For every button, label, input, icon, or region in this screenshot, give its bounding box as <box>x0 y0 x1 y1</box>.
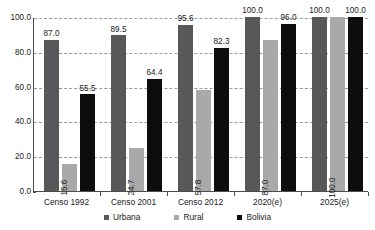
bar-value-urbana-2020e: 100.0 <box>242 7 263 16</box>
bars: 100.0 87.0 96.0 <box>242 18 302 191</box>
bars: 87.0 15.6 55.5 <box>41 18 101 191</box>
legend-label-urbana: Urbana <box>113 212 140 222</box>
bar-value-rural-censo-1992: 15.6 <box>61 180 70 196</box>
bar-bolivia-censo-1992[interactable]: 55.5 <box>80 94 95 191</box>
y-tick-mark-0 <box>33 192 36 193</box>
bars: 100.0 100.0 100.0 <box>309 18 369 191</box>
bar-rural-2025e[interactable]: 100.0 <box>330 17 345 191</box>
x-axis-label-censo-2012: Censo 2012 <box>167 197 234 207</box>
x-tick-mark-2 <box>234 192 235 196</box>
bar-value-bolivia-censo-2001: 64.4 <box>147 69 163 78</box>
bar-value-rural-censo-2001: 24.7 <box>128 180 137 196</box>
y-tick-label-80: 80.0 <box>1 49 31 57</box>
bar-value-bolivia-2025e: 100.0 <box>345 7 366 16</box>
bar-bolivia-2025e[interactable]: 100.0 <box>348 17 363 191</box>
y-tick-label-100: 100.0 <box>1 14 31 22</box>
x-axis-label-censo-2001: Censo 2001 <box>100 197 167 207</box>
plot-area: 87.0 15.6 55.5 89.5 24.7 64.4 <box>33 18 368 192</box>
legend-label-bolivia: Bolivia <box>246 212 271 222</box>
legend-label-rural: Rural <box>183 212 203 222</box>
bar-value-rural-2025e: 100.0 <box>329 178 338 199</box>
bar-group-censo-2012: 95.6 57.8 82.3 <box>175 18 235 191</box>
y-tick-label-20: 20.0 <box>1 153 31 161</box>
x-tick-mark-4 <box>368 192 369 196</box>
x-tick-mark-0 <box>100 192 101 196</box>
bar-group-2020e: 100.0 87.0 96.0 <box>242 18 302 191</box>
bar-rural-censo-1992[interactable]: 15.6 <box>62 164 77 191</box>
bar-rural-censo-2012[interactable]: 57.8 <box>196 90 211 191</box>
legend-item-rural[interactable]: Rural <box>174 212 203 222</box>
x-tick-mark-3 <box>301 192 302 196</box>
bar-urbana-censo-2001[interactable]: 89.5 <box>111 35 126 191</box>
x-axis-label-2020e: 2020(e) <box>234 197 301 207</box>
legend-item-urbana[interactable]: Urbana <box>104 212 140 222</box>
y-tick-label-0: 0.0 <box>1 188 31 196</box>
bar-urbana-2020e[interactable]: 100.0 <box>245 17 260 191</box>
bar-value-urbana-2025e: 100.0 <box>309 7 330 16</box>
bar-chart: 100.0 80.0 60.0 40.0 20.0 0.0 87.0 15.6 <box>0 0 375 230</box>
legend-swatch-rural-icon <box>174 215 179 220</box>
bar-bolivia-censo-2001[interactable]: 64.4 <box>147 79 162 191</box>
legend-swatch-urbana-icon <box>104 215 109 220</box>
bar-value-bolivia-censo-2012: 82.3 <box>214 38 230 47</box>
bar-urbana-censo-1992[interactable]: 87.0 <box>44 40 59 191</box>
chart-legend: Urbana Rural Bolivia <box>0 212 375 222</box>
bar-urbana-censo-2012[interactable]: 95.6 <box>178 25 193 191</box>
bar-value-rural-censo-2012: 57.8 <box>195 180 204 196</box>
bar-bolivia-censo-2012[interactable]: 82.3 <box>214 48 229 191</box>
bar-value-urbana-censo-2012: 95.6 <box>178 15 194 24</box>
bar-bolivia-2020e[interactable]: 96.0 <box>281 24 296 191</box>
legend-swatch-bolivia-icon <box>237 215 242 220</box>
bar-rural-censo-2001[interactable]: 24.7 <box>129 148 144 191</box>
bar-group-censo-1992: 87.0 15.6 55.5 <box>41 18 101 191</box>
bar-urbana-2025e[interactable]: 100.0 <box>312 17 327 191</box>
legend-item-bolivia[interactable]: Bolivia <box>237 212 271 222</box>
bar-value-bolivia-censo-1992: 55.5 <box>80 85 96 94</box>
bars: 95.6 57.8 82.3 <box>175 18 235 191</box>
bar-group-censo-2001: 89.5 24.7 64.4 <box>108 18 168 191</box>
y-axis: 100.0 80.0 60.0 40.0 20.0 0.0 <box>0 18 31 192</box>
bar-value-urbana-censo-2001: 89.5 <box>111 26 127 35</box>
bar-value-urbana-censo-1992: 87.0 <box>44 30 60 39</box>
x-axis-label-censo-1992: Censo 1992 <box>33 197 100 207</box>
bars: 89.5 24.7 64.4 <box>108 18 168 191</box>
x-tick-mark-1 <box>167 192 168 196</box>
bar-rural-2020e[interactable]: 87.0 <box>263 40 278 191</box>
bar-value-rural-2020e: 87.0 <box>262 180 271 196</box>
x-axis-label-2025e: 2025(e) <box>301 197 368 207</box>
bar-value-bolivia-2020e: 96.0 <box>281 14 297 23</box>
bar-group-2025e: 100.0 100.0 100.0 <box>309 18 369 191</box>
y-tick-label-60: 60.0 <box>1 84 31 92</box>
y-tick-label-40: 40.0 <box>1 118 31 126</box>
